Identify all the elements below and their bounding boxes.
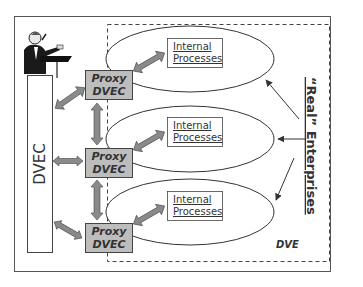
arrow-proxy2-proxy3 xyxy=(91,180,103,220)
svg-text:Proxy: Proxy xyxy=(92,72,128,85)
svg-text:Processes: Processes xyxy=(173,53,222,64)
arrow-dvec-proxy3 xyxy=(52,218,85,243)
proxy-dvec-1: Proxy DVEC xyxy=(86,71,133,100)
real-enterprises-label: “Real” Enterprises xyxy=(304,77,319,215)
arrow-dvec-proxy2 xyxy=(53,156,83,166)
speaker-at-podium-icon xyxy=(24,32,72,78)
dvec-label: DVEC xyxy=(31,143,49,185)
internal-processes-2: Internal Processes xyxy=(168,118,223,147)
svg-text:Proxy: Proxy xyxy=(92,225,128,238)
svg-text:Processes: Processes xyxy=(173,206,222,217)
svg-text:Internal: Internal xyxy=(173,194,212,205)
dve-diagram: DVEC Internal Processes Internal Process… xyxy=(0,0,363,287)
svg-text:Internal: Internal xyxy=(173,41,212,52)
proxy-dvec-2: Proxy DVEC xyxy=(86,149,133,178)
svg-text:DVEC: DVEC xyxy=(92,163,125,176)
arrow-dvec-proxy1 xyxy=(52,83,88,113)
internal-processes-1: Internal Processes xyxy=(168,39,223,68)
svg-text:Processes: Processes xyxy=(173,132,222,143)
svg-text:DVEC: DVEC xyxy=(92,238,125,251)
arrow-proxy1-proxy2 xyxy=(91,103,103,145)
svg-text:Proxy: Proxy xyxy=(92,150,128,163)
dve-label: DVE xyxy=(276,239,299,250)
proxy-dvec-3: Proxy DVEC xyxy=(86,224,133,253)
internal-processes-3: Internal Processes xyxy=(168,192,223,221)
svg-text:Internal: Internal xyxy=(173,120,212,131)
svg-text:DVEC: DVEC xyxy=(92,85,125,98)
